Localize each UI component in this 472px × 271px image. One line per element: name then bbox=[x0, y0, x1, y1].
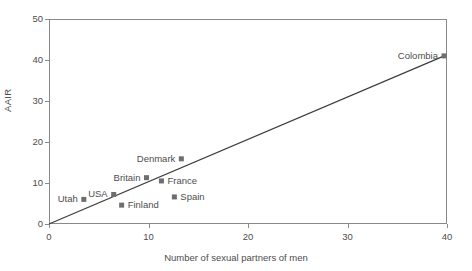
y-tick-label-10: 10 bbox=[22, 178, 43, 188]
data-point-marker bbox=[111, 192, 116, 197]
data-point-marker bbox=[442, 53, 447, 58]
x-tick-label-0: 0 bbox=[46, 232, 51, 242]
point-label-spain: Spain bbox=[180, 192, 204, 202]
y-tick-label-30: 30 bbox=[22, 96, 43, 106]
y-tick-label-0: 0 bbox=[22, 219, 43, 229]
x-tick-label-40: 40 bbox=[442, 232, 453, 242]
data-point-marker bbox=[172, 194, 177, 199]
plot-vector-layer bbox=[0, 0, 472, 271]
x-tick-label-20: 20 bbox=[243, 232, 254, 242]
point-label-finland: Finland bbox=[128, 200, 159, 210]
point-label-denmark: Denmark bbox=[137, 154, 176, 164]
data-point-marker bbox=[119, 203, 124, 208]
y-axis-title: AAIR bbox=[2, 89, 13, 112]
data-point-marker bbox=[81, 197, 86, 202]
point-label-france: France bbox=[167, 176, 197, 186]
point-label-colombia: Colombia bbox=[398, 51, 438, 61]
x-tick-label-30: 30 bbox=[342, 232, 353, 242]
point-label-utah: Utah bbox=[58, 195, 78, 205]
trendline bbox=[49, 55, 446, 224]
data-point-markers bbox=[81, 53, 446, 207]
y-tick-label-40: 40 bbox=[22, 55, 43, 65]
x-axis-title: Number of sexual partners of men bbox=[0, 252, 472, 263]
data-point-marker bbox=[159, 178, 164, 183]
point-label-britain: Britain bbox=[114, 173, 141, 183]
point-label-usa: USA bbox=[88, 190, 108, 200]
data-point-marker bbox=[179, 156, 184, 161]
data-point-marker bbox=[144, 175, 149, 180]
y-tick-label-50: 50 bbox=[22, 14, 43, 24]
x-tick-label-10: 10 bbox=[143, 232, 154, 242]
scatter-chart: 01020304050 010203040 UtahUSAFinlandBrit… bbox=[0, 0, 472, 271]
y-tick-label-20: 20 bbox=[22, 137, 43, 147]
